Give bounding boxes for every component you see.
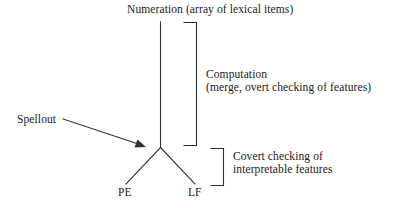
- branch-line-lf: [161, 148, 196, 185]
- branch-line-pe: [126, 148, 161, 185]
- computation-bracket: [184, 23, 197, 146]
- covert-label-line2: interpretable features: [233, 163, 333, 176]
- computation-label-line1: Computation: [206, 68, 267, 80]
- spellout-arrow-shaft: [63, 119, 140, 145]
- diagram-lines: [0, 0, 393, 208]
- spellout-label: Spellout: [17, 113, 56, 126]
- computation-label-block: Computation (merge, overt checking of fe…: [206, 68, 371, 94]
- spellout-arrowhead: [135, 140, 147, 148]
- y-model-diagram: Numeration (array of lexical items) Spel…: [0, 0, 393, 208]
- covert-label-block: Covert checking of interpretable feature…: [233, 150, 333, 176]
- numeration-label: Numeration (array of lexical items): [127, 3, 293, 16]
- covert-bracket: [211, 149, 224, 186]
- computation-label-line2: (merge, overt checking of features): [206, 81, 371, 94]
- pe-label: PE: [118, 186, 132, 199]
- lf-label: LF: [188, 186, 202, 199]
- covert-label-line1: Covert checking of: [233, 150, 323, 162]
